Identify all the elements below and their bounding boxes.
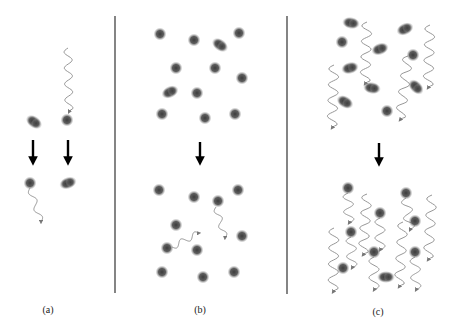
photon-wave-icon xyxy=(395,222,407,287)
panel-c xyxy=(327,16,436,292)
panel-b xyxy=(153,27,249,284)
molecule-icon xyxy=(405,76,426,97)
atom-icon xyxy=(342,182,355,195)
molecule-icon xyxy=(57,174,78,191)
atom-icon xyxy=(368,246,381,259)
atom-icon xyxy=(400,187,413,200)
panel-label-b: (b) xyxy=(194,304,206,315)
photon-wave-icon xyxy=(369,257,379,290)
photon-wave-icon xyxy=(346,237,357,268)
photon-wave-icon xyxy=(423,25,434,88)
atom-icon xyxy=(199,112,212,125)
photon-wave-icon xyxy=(359,194,371,255)
photon-wave-icon xyxy=(328,228,339,292)
atom-icon xyxy=(409,215,422,228)
photon-wave-icon xyxy=(410,257,421,290)
photon-wave-icon xyxy=(424,195,436,260)
panel-a xyxy=(23,48,78,222)
panel-label-c: (c) xyxy=(372,306,383,317)
atom-icon xyxy=(153,184,166,197)
atom-icon xyxy=(337,262,350,275)
atom-icon xyxy=(191,244,204,257)
atom-icon xyxy=(229,108,242,121)
molecule-icon xyxy=(340,60,360,76)
diagram-canvas xyxy=(0,0,458,335)
atom-icon xyxy=(209,62,222,75)
atom-icon xyxy=(61,114,74,127)
photon-wave-icon xyxy=(214,207,227,238)
atom-icon xyxy=(197,271,210,284)
atom-icon xyxy=(191,87,204,100)
atom-icon xyxy=(345,226,358,239)
panels xyxy=(23,16,436,292)
molecule-icon xyxy=(341,16,361,31)
atom-icon xyxy=(381,105,394,118)
atom-icon xyxy=(233,27,246,40)
atom-icon xyxy=(374,207,387,220)
atom-icon xyxy=(228,266,241,279)
atom-icon xyxy=(156,266,169,279)
molecule-icon xyxy=(209,35,231,55)
atom-icon xyxy=(154,28,167,41)
molecule-icon xyxy=(159,83,180,101)
photon-wave-icon xyxy=(327,65,338,128)
atom-icon xyxy=(170,62,183,75)
molecule-icon xyxy=(394,20,415,38)
atom-icon xyxy=(24,177,37,190)
atom-icon xyxy=(170,219,183,232)
molecule-icon xyxy=(23,112,45,132)
atom-icon xyxy=(336,36,349,49)
atom-icon xyxy=(161,242,174,255)
atom-icon xyxy=(409,246,422,259)
photon-wave-icon xyxy=(28,188,42,222)
atom-icon xyxy=(156,108,169,121)
photon-wave-icon xyxy=(64,48,73,112)
atom-icon xyxy=(212,195,225,208)
photon-wave-icon xyxy=(375,218,385,250)
atom-icon xyxy=(236,72,249,85)
panel-label-a: (a) xyxy=(42,304,53,315)
molecule-icon xyxy=(369,40,390,57)
atom-icon xyxy=(188,34,201,47)
atom-icon xyxy=(407,49,420,62)
molecule-icon xyxy=(362,81,382,96)
atom-icon xyxy=(188,191,201,204)
photon-wave-icon xyxy=(397,56,412,120)
atom-icon xyxy=(236,230,249,243)
molecule-icon xyxy=(377,271,395,283)
atom-icon xyxy=(232,184,245,197)
photon-wave-icon xyxy=(360,22,371,84)
photon-wave-icon xyxy=(343,193,354,223)
